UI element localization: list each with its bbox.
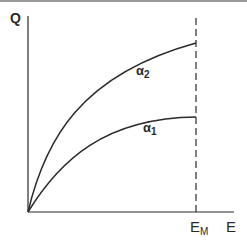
curve-label-subscript: 1 [151,126,157,137]
curve-label-text: α [136,63,144,78]
curve-alpha-2 [28,43,196,212]
y-axis-label: Q [10,10,21,26]
x-marker-subscript: M [200,226,208,237]
curve-label-alpha-1: α1 [143,120,157,137]
diagram-canvas [0,0,247,244]
x-axis-label: E [226,218,236,235]
curve-label-text: α [143,120,151,135]
curve-label-subscript: 2 [144,69,150,80]
curve-alpha-1 [28,117,196,212]
x-marker-label: EM [190,218,208,237]
curve-label-alpha-2: α2 [136,63,150,80]
x-marker-text: E [190,218,200,235]
